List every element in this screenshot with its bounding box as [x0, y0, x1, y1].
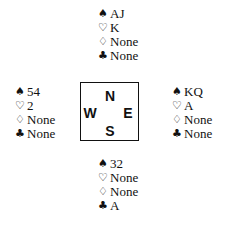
club-icon: ♣: [171, 127, 183, 141]
compass-north: N: [103, 89, 117, 103]
heart-icon: ♡: [14, 99, 26, 113]
west-clubs: None: [27, 127, 55, 141]
spade-icon: ♠: [97, 7, 109, 21]
south-spades: 32: [110, 157, 123, 171]
diamond-icon: ♢: [14, 113, 26, 127]
club-icon: ♣: [97, 199, 109, 213]
diamond-icon: ♢: [171, 113, 183, 127]
north-diamonds: None: [110, 35, 138, 49]
compass-east: E: [121, 106, 135, 120]
north-spades: AJ: [110, 7, 124, 21]
compass-box: N W E S: [80, 82, 139, 141]
club-icon: ♣: [97, 49, 109, 63]
spade-icon: ♠: [14, 85, 26, 99]
west-diamonds: None: [27, 113, 55, 127]
north-clubs: None: [110, 49, 138, 63]
east-diamonds: None: [184, 113, 212, 127]
east-spades: KQ: [184, 85, 203, 99]
diamond-icon: ♢: [97, 185, 109, 199]
east-hearts: A: [184, 99, 193, 113]
compass-west: W: [83, 106, 97, 120]
east-clubs: None: [184, 127, 212, 141]
spade-icon: ♠: [97, 157, 109, 171]
diamond-icon: ♢: [97, 35, 109, 49]
west-spades: 54: [27, 85, 40, 99]
heart-icon: ♡: [171, 99, 183, 113]
north-hearts: K: [110, 21, 119, 35]
south-clubs: A: [110, 199, 119, 213]
west-hearts: 2: [27, 99, 34, 113]
compass-south: S: [103, 124, 117, 138]
south-diamonds: None: [110, 185, 138, 199]
spade-icon: ♠: [171, 85, 183, 99]
club-icon: ♣: [14, 127, 26, 141]
heart-icon: ♡: [97, 171, 109, 185]
heart-icon: ♡: [97, 21, 109, 35]
south-hearts: None: [110, 171, 138, 185]
